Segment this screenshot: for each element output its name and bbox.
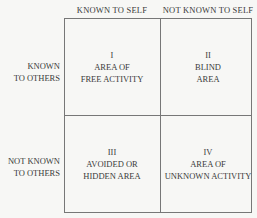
cell-unknown-activity: IV AREA OF UNKNOWN ACTIVITY — [161, 116, 255, 211]
row-header-line: TO OTHERS — [14, 72, 60, 84]
cell-blind-area: II BLIND AREA — [161, 19, 255, 114]
cell-label: UNKNOWN ACTIVITY — [165, 170, 252, 182]
row-header-line: KNOWN — [14, 60, 60, 72]
cell-numeral: IV — [204, 146, 213, 158]
cell-label: AREA OF — [190, 158, 226, 170]
cell-hidden-area: III AVOIDED OR HIDDEN AREA — [65, 116, 159, 211]
cell-label: FREE ACTIVITY — [81, 73, 144, 85]
cell-label: BLIND — [195, 61, 221, 73]
column-header-not-known-to-self: NOT KNOWN TO SELF — [160, 5, 256, 15]
cell-numeral: III — [108, 146, 117, 158]
johari-window-grid: I AREA OF FREE ACTIVITY II BLIND AREA II… — [64, 18, 252, 213]
cell-label: HIDDEN AREA — [83, 170, 140, 182]
cell-free-activity: I AREA OF FREE ACTIVITY — [65, 19, 159, 114]
row-header-known-to-others: KNOWN TO OTHERS — [14, 60, 60, 84]
cell-label: AREA OF — [94, 61, 130, 73]
cell-numeral: I — [111, 49, 114, 61]
row-header-line: TO OTHERS — [8, 167, 60, 179]
row-header-line: NOT KNOWN — [8, 155, 60, 167]
row-header-not-known-to-others: NOT KNOWN TO OTHERS — [8, 155, 60, 179]
cell-numeral: II — [205, 49, 211, 61]
cell-label: AREA — [196, 73, 219, 85]
column-header-known-to-self: KNOWN TO SELF — [64, 5, 160, 15]
cell-label: AVOIDED OR — [86, 158, 138, 170]
